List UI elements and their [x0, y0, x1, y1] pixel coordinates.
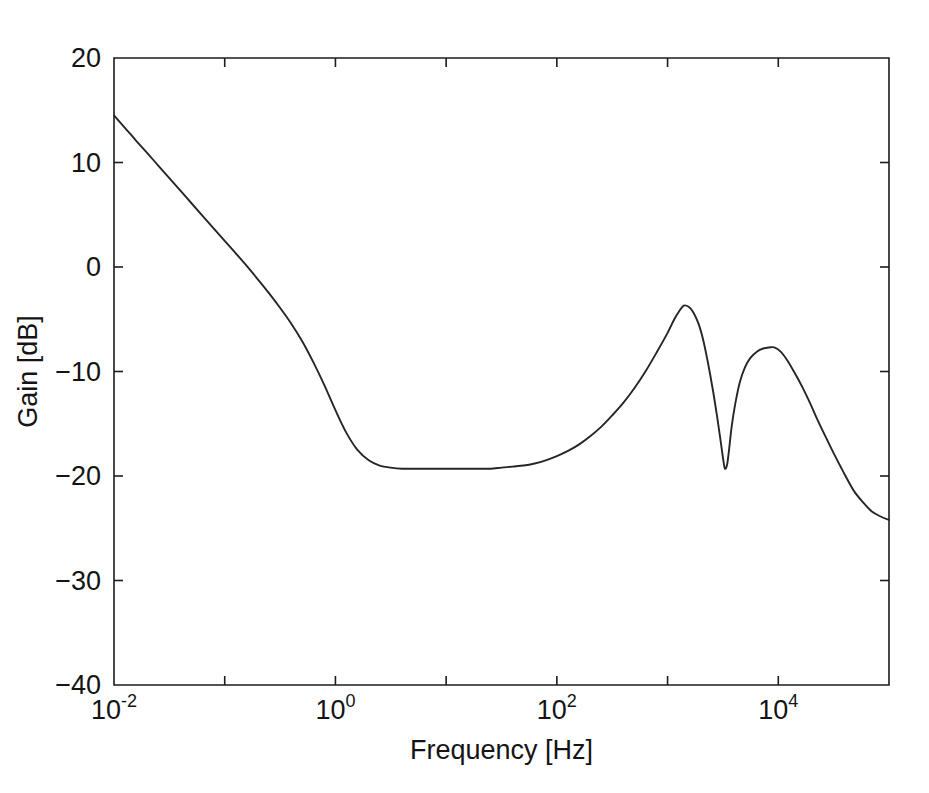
x-tick-label: 102: [537, 691, 577, 725]
x-axis-title: Frequency [Hz]: [410, 735, 593, 765]
x-tick-label: 10-2: [91, 691, 137, 725]
y-tick-label: 0: [86, 252, 101, 282]
bode-gain-figure: 20100−10−20−30−4010-2100102104Frequency …: [0, 0, 929, 793]
y-axis-title: Gain [dB]: [13, 315, 43, 428]
y-tick-label: −20: [55, 461, 101, 491]
plot-canvas: 20100−10−20−30−4010-2100102104Frequency …: [0, 0, 929, 793]
y-tick-label: 10: [71, 148, 101, 178]
x-tick-label: 100: [315, 691, 355, 725]
y-tick-label: 20: [71, 43, 101, 73]
gain-curve: [114, 115, 889, 519]
y-tick-label: −10: [55, 357, 101, 387]
axis-frame: [114, 58, 889, 685]
y-tick-label: −30: [55, 566, 101, 596]
x-tick-label: 104: [758, 691, 798, 725]
